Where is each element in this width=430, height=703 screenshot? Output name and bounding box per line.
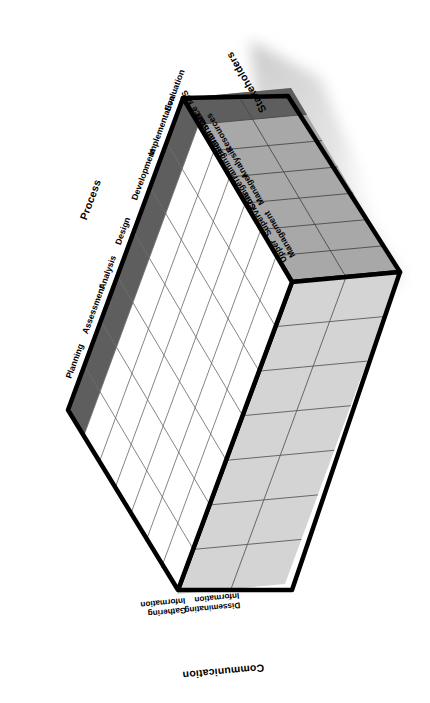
communication-tick-1: DisseminatingInformation	[183, 591, 240, 615]
communication-tick-0: GatheringInformation	[140, 596, 187, 619]
axis-title-process: Process	[77, 178, 103, 222]
axis-title-communication: Communication	[182, 662, 265, 682]
three-axis-cube-matrix: MISStaffHumanResourcesTraining/Performan…	[0, 0, 430, 703]
diagram-canvas: MISStaffHumanResourcesTraining/Performan…	[0, 0, 430, 703]
